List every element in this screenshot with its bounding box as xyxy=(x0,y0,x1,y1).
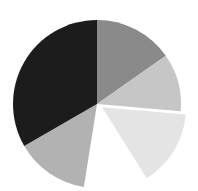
pie-chart xyxy=(0,0,198,191)
pie-slices xyxy=(13,20,186,188)
